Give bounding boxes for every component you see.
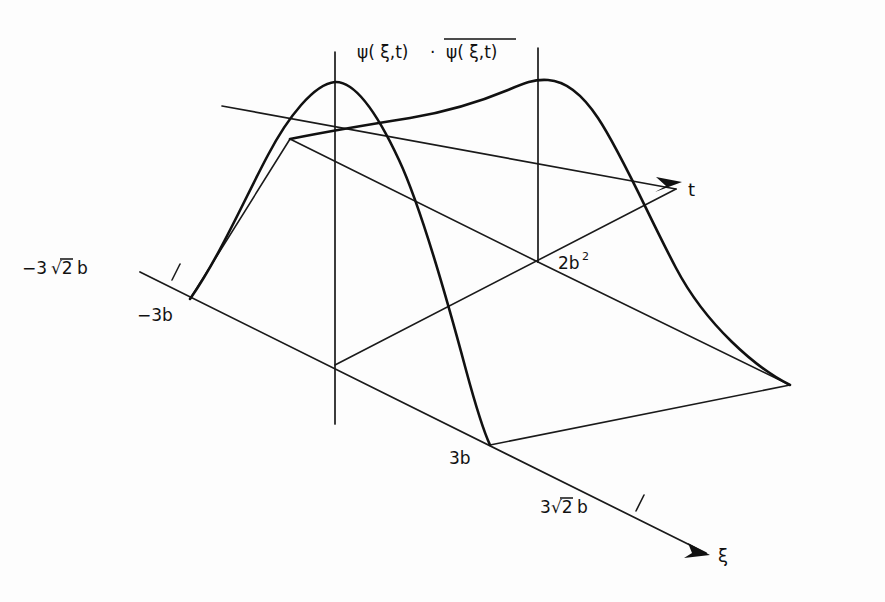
- axes-group: [140, 48, 790, 558]
- label-neg-three-sqrt-two-b-prefix: −3: [22, 258, 47, 278]
- xi-axis-arrowhead: [684, 543, 710, 558]
- depth-axis-origin-line: [335, 189, 676, 365]
- label-two-b-squared: 2b 2: [558, 250, 589, 273]
- label-neg-three-sqrt-two-b-radical: √2: [51, 258, 73, 278]
- front-base-right-edge: [490, 385, 790, 445]
- label-two-b-squared-exponent: 2: [582, 250, 589, 263]
- title-psi-conjugate: ψ( ξ,t): [446, 42, 497, 62]
- label-neg-three-sqrt-two-b: −3 √2 b: [22, 258, 88, 278]
- front-profile-curve-t0: [190, 82, 490, 445]
- tick-three-sqrt-two-b: [636, 495, 644, 511]
- plot-title: ψ( ξ,t) · ψ( ξ,t): [357, 39, 516, 62]
- title-psi-first: ψ( ξ,t): [357, 42, 408, 62]
- t-axis-label: t: [688, 179, 695, 200]
- title-dot-operator: ·: [430, 42, 435, 62]
- label-three-sqrt-two-b-radical: √2: [551, 497, 573, 517]
- profile-curves-group: [190, 80, 790, 445]
- label-neg-three-b: −3b: [137, 305, 173, 325]
- back-profile-curve-later-t: [290, 80, 790, 385]
- label-neg-three-sqrt-two-b-suffix: b: [77, 258, 88, 278]
- label-three-sqrt-two-b: 3 √2 b: [540, 497, 588, 517]
- label-three-sqrt-two-b-suffix: b: [577, 497, 588, 517]
- label-two-b-squared-base: 2b: [558, 253, 580, 273]
- tick-neg-three-sqrt-two-b: [172, 264, 180, 280]
- label-three-b: 3b: [449, 448, 471, 468]
- t-axis-arrowhead: [655, 177, 682, 192]
- back-base-right-line: [538, 262, 790, 385]
- xi-axis-label: ξ: [718, 545, 728, 566]
- wave-packet-3d-diagram: ψ( ξ,t) · ψ( ξ,t) −3 √2 b −3b 3b 3 √2: [0, 0, 885, 602]
- figure-root: ψ( ξ,t) · ψ( ξ,t) −3 √2 b −3b 3b 3 √2: [0, 0, 885, 602]
- label-three-sqrt-two-b-prefix: 3: [540, 497, 551, 517]
- xi-axis-line: [140, 272, 706, 553]
